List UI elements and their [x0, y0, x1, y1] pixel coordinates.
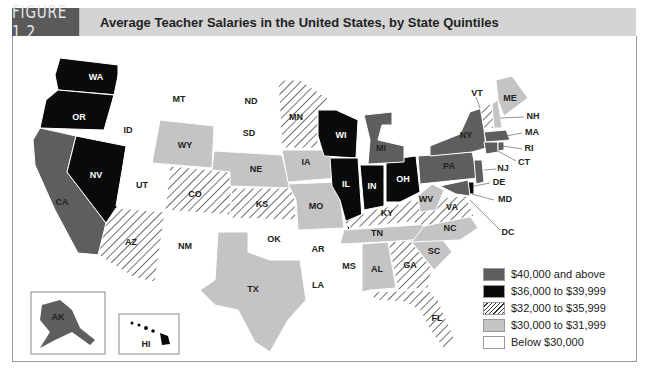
svg-text:WY: WY	[178, 140, 193, 150]
legend-swatch-hatched	[483, 302, 505, 315]
svg-text:OH: OH	[396, 174, 410, 184]
svg-text:WV: WV	[419, 194, 434, 204]
svg-text:AK: AK	[52, 312, 65, 322]
svg-text:NM: NM	[178, 241, 192, 251]
svg-text:CT: CT	[518, 157, 530, 167]
svg-text:PA: PA	[443, 161, 455, 171]
state-md	[440, 180, 470, 196]
svg-text:TN: TN	[371, 228, 383, 238]
legend-item-q2: $36,000 to $39,999	[483, 283, 606, 299]
svg-text:TX: TX	[247, 284, 259, 294]
svg-text:WI: WI	[336, 130, 347, 140]
svg-text:SC: SC	[428, 246, 441, 256]
svg-text:OK: OK	[267, 234, 281, 244]
svg-text:MA: MA	[525, 127, 539, 137]
state-mi	[364, 112, 404, 164]
svg-text:NY: NY	[460, 130, 473, 140]
svg-text:DC: DC	[502, 227, 515, 237]
legend-swatch-black	[483, 285, 505, 298]
state-wa	[55, 58, 118, 95]
legend-swatch-light-gray	[483, 319, 505, 332]
legend: $40,000 and above $36,000 to $39,999 $32…	[483, 266, 606, 351]
svg-text:NH: NH	[527, 111, 540, 121]
svg-text:MI: MI	[376, 143, 386, 153]
svg-text:MD: MD	[498, 194, 512, 204]
svg-text:NE: NE	[250, 164, 263, 174]
svg-text:FL: FL	[432, 313, 443, 323]
legend-label: Below $30,000	[511, 336, 584, 348]
state-or	[40, 90, 114, 130]
svg-text:AL: AL	[371, 264, 383, 274]
svg-text:IL: IL	[342, 179, 351, 189]
legend-label: $40,000 and above	[511, 268, 605, 280]
svg-text:SD: SD	[243, 128, 256, 138]
legend-item-q4: $30,000 to $31,999	[483, 317, 606, 333]
state-ny	[430, 108, 486, 156]
legend-swatch-white	[483, 336, 505, 349]
svg-text:LA: LA	[312, 280, 324, 290]
svg-text:WA: WA	[89, 72, 104, 82]
svg-text:MS: MS	[342, 261, 356, 271]
svg-text:GA: GA	[403, 260, 417, 270]
svg-text:MO: MO	[309, 201, 324, 211]
svg-text:DE: DE	[493, 177, 506, 187]
svg-text:AZ: AZ	[125, 237, 137, 247]
svg-text:HI: HI	[142, 339, 151, 349]
state-ct	[484, 142, 498, 154]
svg-text:VT: VT	[471, 88, 483, 98]
legend-label: $30,000 to $31,999	[511, 319, 606, 331]
legend-item-q3: $32,000 to $35,999	[483, 300, 606, 316]
svg-text:NJ: NJ	[497, 163, 509, 173]
legend-label: $36,000 to $39,999	[511, 285, 606, 297]
svg-text:CO: CO	[188, 189, 202, 199]
svg-text:ND: ND	[245, 96, 258, 106]
svg-text:AR: AR	[312, 244, 325, 254]
state-nj	[474, 160, 484, 184]
legend-item-q1: $40,000 and above	[483, 266, 606, 282]
svg-text:ME: ME	[503, 93, 517, 103]
svg-text:NC: NC	[444, 223, 457, 233]
svg-text:KY: KY	[381, 208, 394, 218]
svg-text:MT: MT	[173, 94, 186, 104]
svg-text:ID: ID	[124, 125, 134, 135]
svg-text:KS: KS	[256, 199, 269, 209]
svg-text:MN: MN	[289, 112, 303, 122]
svg-text:NV: NV	[90, 170, 103, 180]
svg-text:IA: IA	[302, 157, 312, 167]
svg-text:CA: CA	[56, 197, 69, 207]
svg-text:IN: IN	[368, 181, 377, 191]
svg-text:OR: OR	[72, 112, 86, 122]
svg-text:UT: UT	[136, 180, 148, 190]
svg-text:VA: VA	[446, 202, 458, 212]
legend-swatch-dark-gray	[483, 268, 505, 281]
svg-text:RI: RI	[525, 143, 534, 153]
legend-item-q5: Below $30,000	[483, 334, 606, 350]
state-ri	[498, 142, 504, 151]
legend-label: $32,000 to $35,999	[511, 302, 606, 314]
